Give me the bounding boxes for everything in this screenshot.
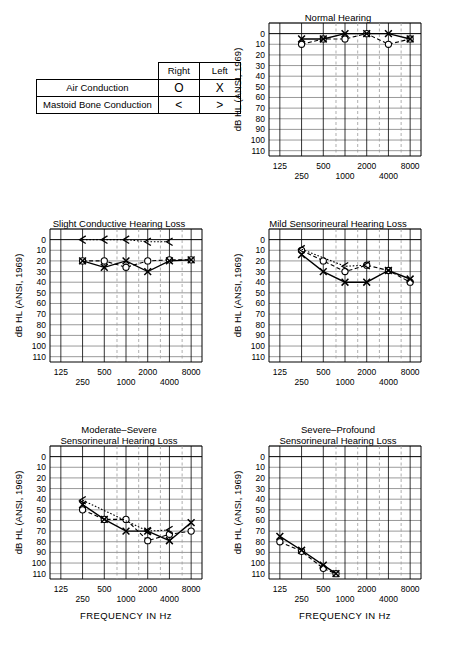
svg-text:4000: 4000 [160,377,179,387]
y-axis-label: dB HL (ANSI, 1969) [232,48,243,132]
svg-text:40: 40 [256,494,266,504]
chart-plot-wrapper: 0102030405060708090100110125500200080002… [12,446,226,622]
svg-text:50: 50 [37,288,47,298]
svg-text:125: 125 [273,584,287,594]
svg-text:90: 90 [256,330,266,340]
legend-header-row: Right Left [37,63,241,80]
svg-text:0: 0 [260,29,265,39]
chart-plot-wrapper: 0102030405060708090100110125500200080002… [231,23,445,199]
y-axis-tick-labels: 0102030405060708090100110 [251,452,265,579]
svg-text:2000: 2000 [357,367,376,377]
y-axis-tick-labels: 0102030405060708090100110 [251,235,265,362]
svg-text:250: 250 [294,377,308,387]
audiogram-panel-mild-sensorineural: Mild Sensorineural Hearing Loss010203040… [231,218,445,405]
svg-text:10: 10 [37,462,47,472]
svg-text:100: 100 [251,558,265,568]
data-series-air-right [79,257,194,271]
svg-text:80: 80 [256,114,266,124]
svg-text:40: 40 [256,71,266,81]
x-axis-tick-labels: 1255002000800025010004000 [273,161,420,181]
svg-text:250: 250 [294,594,308,604]
svg-text:125: 125 [54,584,68,594]
svg-text:0: 0 [41,452,46,462]
chart-plot-wrapper: 0102030405060708090100110125500200080002… [231,229,445,405]
svg-text:2000: 2000 [138,584,157,594]
svg-text:30: 30 [256,61,266,71]
svg-text:1000: 1000 [336,377,355,387]
chart-title-line: Sensorineural Hearing Loss [231,435,445,446]
svg-text:2000: 2000 [357,584,376,594]
svg-text:500: 500 [316,161,330,171]
svg-text:125: 125 [54,367,68,377]
x-axis-tick-labels: 1255002000800025010004000 [54,367,201,387]
legend-row-air-conduction: Air Conduction O X [37,80,241,97]
y-axis-label: dB HL (ANSI, 1969) [232,254,243,338]
svg-text:1000: 1000 [117,594,136,604]
audiogram-panel-normal-hearing: Normal Hearing01020304050607080901001101… [231,12,445,199]
svg-text:0: 0 [260,452,265,462]
svg-text:60: 60 [256,298,266,308]
data-series-air-left [276,533,339,577]
audiogram-panel-slight-conductive: Slight Conductive Hearing Loss0102030405… [12,218,226,405]
chart-title-line: Sensorineural Hearing Loss [12,435,226,446]
svg-text:60: 60 [256,515,266,525]
svg-text:90: 90 [256,547,266,557]
audiogram-plot: 0102030405060708090100110125500200080002… [12,229,226,405]
chart-gridlines [269,23,421,156]
svg-text:4000: 4000 [379,377,398,387]
svg-text:30: 30 [256,267,266,277]
svg-text:50: 50 [256,505,266,515]
svg-text:70: 70 [37,309,47,319]
y-axis-tick-labels: 0102030405060708090100110 [251,29,265,156]
svg-text:10: 10 [256,39,266,49]
svg-text:100: 100 [251,135,265,145]
audiogram-plot: 0102030405060708090100110125500200080002… [231,23,445,199]
svg-text:40: 40 [256,277,266,287]
y-axis-tick-labels: 0102030405060708090100110 [32,452,46,579]
svg-text:60: 60 [37,298,47,308]
legend-col-right: Right [158,63,199,80]
chart-plot-wrapper: 0102030405060708090100110125500200080002… [12,229,226,405]
chart-title-line: Mild Sensorineural Hearing Loss [231,218,445,229]
svg-text:90: 90 [37,330,47,340]
audiogram-plot: 0102030405060708090100110125500200080002… [231,446,445,622]
audiogram-panel-moderate-severe: Moderate–SevereSensorineural Hearing Los… [12,424,226,622]
svg-text:8000: 8000 [401,367,420,377]
svg-text:80: 80 [37,320,47,330]
svg-text:20: 20 [256,50,266,60]
svg-text:500: 500 [316,367,330,377]
svg-text:500: 500 [97,367,111,377]
svg-text:80: 80 [256,320,266,330]
svg-text:1000: 1000 [336,594,355,604]
chart-title-line: Moderate–Severe [12,424,226,435]
legend-corner-cell [37,63,159,80]
svg-text:1000: 1000 [117,377,136,387]
svg-text:100: 100 [251,341,265,351]
svg-text:8000: 8000 [401,161,420,171]
svg-text:50: 50 [256,82,266,92]
chart-plot-wrapper: 0102030405060708090100110125500200080002… [231,446,445,622]
svg-text:2000: 2000 [138,367,157,377]
svg-text:125: 125 [273,161,287,171]
svg-text:4000: 4000 [160,594,179,604]
chart-gridlines [269,229,421,362]
svg-text:30: 30 [37,484,47,494]
svg-text:2000: 2000 [357,161,376,171]
svg-text:125: 125 [273,367,287,377]
svg-text:110: 110 [32,569,46,579]
data-series-air-right [79,507,194,544]
svg-text:4000: 4000 [379,171,398,181]
svg-text:10: 10 [256,245,266,255]
chart-title-line: Slight Conductive Hearing Loss [12,218,226,229]
svg-text:10: 10 [37,245,47,255]
svg-text:30: 30 [37,267,47,277]
svg-text:100: 100 [32,341,46,351]
data-series-air-left [79,501,194,544]
x-axis-label: FREQUENCY IN Hz [80,610,172,621]
y-axis-label: dB HL (ANSI, 1969) [13,471,24,555]
svg-text:70: 70 [256,309,266,319]
svg-text:10: 10 [256,462,266,472]
legend-label-bone-conduction: Mastoid Bone Conduction [37,97,159,114]
svg-text:70: 70 [256,103,266,113]
svg-text:80: 80 [37,537,47,547]
